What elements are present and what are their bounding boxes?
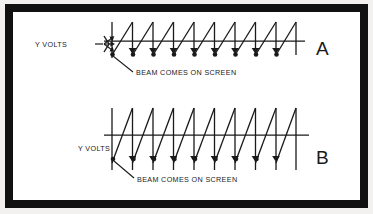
panel-b-sawtooth (112, 108, 296, 170)
beam-dot (234, 157, 239, 162)
beam-dot (254, 157, 259, 162)
panel-a-sawtooth (112, 22, 296, 58)
panel-b-label: B (316, 147, 329, 168)
beam-dot (110, 52, 115, 57)
panel-a-label: A (316, 38, 329, 59)
beam-dot (213, 157, 218, 162)
panel-a-beam-dots (110, 52, 279, 57)
panel-b-callout-label: BEAM COMES ON SCREEN (137, 175, 237, 184)
beam-dot (274, 52, 279, 57)
panel-b-y-volts-label: Y VOLTS (78, 144, 110, 153)
beam-dot (192, 52, 197, 57)
beam-dot (254, 52, 259, 57)
beam-dot (131, 52, 136, 57)
panel-b-callout-leader (114, 161, 134, 178)
panel-a: Y VOLTS BEAM COMES ON SCREEN A (35, 22, 329, 77)
beam-dot (172, 157, 177, 162)
panel-a-y-volts-leader (95, 36, 112, 52)
waveform-drawing: Y VOLTS BEAM COMES ON SCREEN A (0, 0, 373, 214)
panel-a-callout-leader (113, 56, 133, 72)
beam-dot (193, 157, 198, 162)
beam-dot (172, 52, 177, 57)
panel-a-y-volts-label: Y VOLTS (35, 40, 67, 49)
beam-dot (233, 52, 238, 57)
panel-a-callout-label: BEAM COMES ON SCREEN (136, 68, 236, 77)
figure-container: Y VOLTS BEAM COMES ON SCREEN A (0, 0, 373, 214)
beam-dot (131, 157, 136, 162)
beam-dot (151, 52, 156, 57)
beam-dot (152, 157, 157, 162)
beam-dot (111, 157, 116, 162)
beam-dot (213, 52, 218, 57)
panel-b: Y VOLTS BEAM COMES ON SCREEN B (78, 108, 329, 184)
panel-b-beam-dots (111, 157, 259, 162)
